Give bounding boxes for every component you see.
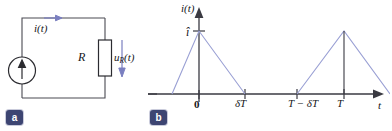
y-axis-arrowhead: [195, 7, 204, 18]
y-axis-label: i(t): [181, 3, 194, 14]
current-direction-arrow-head: [56, 15, 63, 21]
x-tick-label-T-minus-delta-T: T − δT: [288, 98, 318, 109]
figure-root: i(t) R uR(t) a i(t) î 0 δT T − δT T t b: [0, 0, 392, 131]
x-tick-label-delta-T: δT: [235, 98, 246, 109]
resistor-label: R: [78, 51, 85, 63]
x-axis-label: t: [378, 100, 381, 111]
x-tick-label-T: T: [337, 98, 343, 109]
wire-bottom-right: [22, 76, 105, 98]
resistor-body: [99, 40, 112, 76]
x-tick-label-origin: 0: [194, 99, 200, 110]
voltage-label-arg: (t): [124, 51, 134, 63]
circuit-current-label: i(t): [34, 23, 47, 34]
y-tick-label-peak: î: [186, 26, 189, 38]
waveform-plot: [148, 0, 390, 110]
pulse-1: [172, 31, 245, 94]
panel-badge-a: a: [6, 110, 23, 125]
voltage-arrow-head: [119, 68, 125, 77]
panel-badge-b: b: [150, 110, 167, 125]
x-axis-arrowhead: [373, 90, 384, 99]
voltage-label: uR(t): [114, 52, 134, 64]
